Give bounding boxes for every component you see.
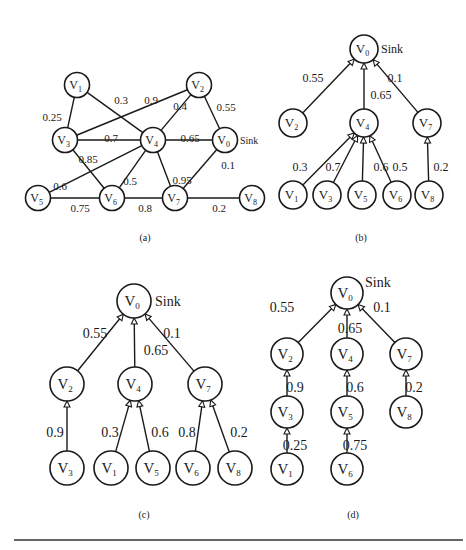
node-label-subscript: 4 — [136, 384, 141, 394]
node-label-subscript: 0 — [365, 49, 369, 58]
node-v0: V0 — [350, 35, 378, 63]
panels: 0.250.30.90.40.550.70.650.850.60.50.950.… — [26, 35, 449, 521]
node-label-subscript: 5 — [154, 468, 159, 478]
edge-v5-v4 — [139, 401, 150, 452]
node-label-subscript: 4 — [365, 123, 369, 132]
arrowhead-icon — [344, 370, 350, 376]
edge-weight-label: 0.85 — [78, 153, 98, 165]
edges: 0.550.650.10.90.60.20.250.75 — [270, 300, 423, 453]
node-label-subscript: 8 — [430, 195, 434, 204]
node-label-subscript: 5 — [363, 195, 367, 204]
node-label-main: V — [338, 285, 349, 301]
node-v8: V8 — [240, 186, 265, 211]
edge-weight-label: 0.1 — [163, 326, 181, 341]
node-label-subscript: 1 — [78, 85, 82, 94]
edge-weight-label: 0.6 — [151, 425, 169, 440]
node-label-subscript: 3 — [68, 468, 73, 478]
edge-v2-v0 — [78, 314, 124, 371]
node-label-main: V — [338, 346, 349, 362]
node-label-subscript: 6 — [398, 195, 402, 204]
node-v6: V6 — [100, 186, 125, 211]
edge-weight-label: 0.65 — [180, 132, 200, 144]
node-label-subscript: 7 — [176, 198, 180, 207]
edge-weight-label: 0.55 — [216, 101, 236, 113]
edge-weight-label: 0.8 — [178, 425, 196, 440]
arrowhead-icon — [360, 137, 366, 143]
edge-weight-label: 0.9 — [286, 380, 304, 395]
node-v1: V1 — [94, 451, 128, 485]
node-label-subscript: 3 — [66, 140, 70, 149]
node-v8: V8 — [218, 451, 252, 485]
node-label-subscript: 0 — [135, 301, 140, 311]
node-label-subscript: 4 — [348, 354, 353, 364]
edge-weight-label: 0.9 — [46, 425, 64, 440]
edge-weight-label: 0.65 — [338, 321, 363, 336]
arrowhead-icon — [131, 318, 137, 324]
edge-v8-v7 — [211, 400, 230, 452]
node-v0: V0 — [117, 284, 151, 318]
node-label-main: V — [217, 133, 226, 147]
edge-weight-label: 0.5 — [393, 160, 408, 174]
node-label-main: V — [145, 133, 154, 147]
node-label-subscript: 1 — [288, 469, 293, 479]
node-label-main: V — [338, 461, 349, 477]
edge-weight-label: 0.3 — [114, 94, 128, 106]
node-v5: V5 — [331, 396, 363, 428]
nodes: V0V2V4V7V1V3V5V6V8 — [279, 35, 443, 209]
panel-caption: (a) — [139, 232, 150, 244]
panel-b: 0.550.650.10.30.70.60.50.2V0V2V4V7V1V3V5… — [279, 35, 449, 244]
arrowhead-icon — [425, 137, 431, 143]
arrowhead-icon — [210, 400, 216, 407]
arrowhead-icon — [370, 136, 376, 143]
edge-weight-label: 0.8 — [138, 202, 152, 214]
node-label-subscript: 2 — [200, 85, 204, 94]
node-v4: V4 — [331, 338, 363, 370]
node-label-subscript: 2 — [288, 354, 293, 364]
edge-v2-v0 — [303, 59, 355, 113]
nodes: V0V2V4V7V3V1V5V6V8 — [50, 284, 252, 485]
node-v5: V5 — [136, 451, 170, 485]
node-label-main: V — [278, 404, 289, 420]
edge-v0-v7 — [183, 149, 217, 188]
node-label-subscript: 0 — [226, 140, 230, 149]
edge-v4-v7 — [157, 152, 170, 187]
node-label-subscript: 8 — [407, 412, 412, 422]
edge-weight-label: 0.6 — [53, 180, 67, 192]
node-label-subscript: 2 — [294, 123, 298, 132]
arrowhead-icon — [64, 401, 70, 407]
edge-weight-label: 0.7 — [104, 132, 118, 144]
node-v2: V2 — [187, 73, 212, 98]
edge-weight-label: 0.6 — [346, 380, 364, 395]
node-v2: V2 — [271, 338, 303, 370]
edge-v2-v0 — [298, 304, 336, 342]
node-label-subscript: 2 — [68, 384, 73, 394]
arrowhead-icon — [344, 309, 350, 315]
node-v7: V7 — [413, 109, 441, 137]
sink-label: Sink — [381, 42, 403, 56]
edge-weight-label: 0.25 — [42, 111, 62, 123]
node-v3: V3 — [313, 181, 341, 209]
node-label-main: V — [125, 293, 136, 309]
node-v7: V7 — [188, 367, 222, 401]
edge-weight-label: 0.55 — [303, 71, 324, 85]
node-label-subscript: 6 — [348, 469, 353, 479]
edge-weight-label: 0.3 — [101, 425, 119, 440]
edges: 0.250.30.90.40.550.70.650.850.60.50.950.… — [42, 90, 239, 214]
node-label-main: V — [167, 191, 176, 205]
node-v6: V6 — [383, 181, 411, 209]
node-v7: V7 — [163, 186, 188, 211]
sink-label: Sink — [155, 294, 181, 309]
node-v2: V2 — [50, 367, 84, 401]
node-v5: V5 — [26, 186, 51, 211]
node-label-main: V — [397, 404, 408, 420]
node-v1: V1 — [271, 453, 303, 485]
node-v1: V1 — [279, 181, 307, 209]
panel-a: 0.250.30.90.40.550.70.650.850.60.50.950.… — [26, 73, 265, 245]
node-v0: V0 — [331, 277, 363, 309]
node-label-subscript: 6 — [113, 198, 117, 207]
node-label-main: V — [57, 133, 66, 147]
node-label-main: V — [58, 376, 69, 392]
node-v6: V6 — [176, 451, 210, 485]
panel-caption: (b) — [355, 232, 367, 244]
node-label-subscript: 5 — [39, 198, 43, 207]
